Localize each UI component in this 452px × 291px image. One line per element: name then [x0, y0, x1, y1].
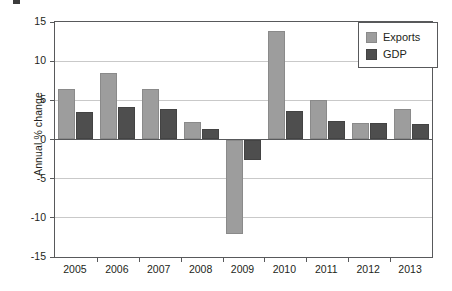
x-tick-mark-2 [181, 257, 182, 262]
legend-item-gdp: GDP [366, 48, 431, 60]
bar-exports-2012 [352, 123, 369, 139]
x-tick-mark-7 [390, 257, 391, 262]
legend-swatch-exports [366, 32, 377, 43]
y-tick-label--15: -15 [2, 251, 46, 262]
y-tick-label-15: 15 [2, 16, 46, 27]
gridline--10 [55, 217, 432, 218]
x-tick-mark-0 [97, 257, 98, 262]
y-tick-mark--5 [50, 178, 55, 179]
y-tick-mark-0 [50, 139, 55, 140]
bar-chart: Annual % change 151050-5-10-15 200520062… [0, 0, 452, 291]
bar-exports-2010 [268, 31, 285, 139]
y-tick-mark-15 [50, 22, 55, 23]
x-tick-mark-3 [223, 257, 224, 262]
bar-exports-2013 [394, 109, 411, 140]
bar-gdp-2008 [202, 129, 219, 139]
bar-gdp-2010 [286, 111, 303, 140]
x-tick-mark-5 [306, 257, 307, 262]
gridline--5 [55, 178, 432, 179]
x-tick-label-2013: 2013 [384, 263, 436, 275]
y-tick-mark--15 [50, 257, 55, 258]
legend-label-exports: Exports [383, 31, 420, 43]
y-tick-label-0: 0 [2, 134, 46, 145]
x-tick-mark-6 [348, 257, 349, 262]
chart-legend: Exports GDP [358, 22, 438, 68]
y-tick-label-10: 10 [2, 55, 46, 66]
bar-exports-2007 [142, 89, 159, 139]
legend-swatch-gdp [366, 49, 377, 60]
bar-exports-2008 [184, 122, 201, 139]
bar-gdp-2013 [412, 124, 429, 140]
x-tick-mark-1 [139, 257, 140, 262]
y-tick-label--10: -10 [2, 212, 46, 223]
cropped-text-mark [13, 0, 20, 4]
bar-exports-2009 [226, 140, 243, 234]
y-tick-label-5: 5 [2, 94, 46, 105]
x-tick-mark-4 [264, 257, 265, 262]
bar-exports-2011 [310, 100, 327, 139]
bar-exports-2005 [58, 89, 75, 139]
y-tick-label--5: -5 [2, 173, 46, 184]
legend-label-gdp: GDP [383, 48, 407, 60]
bar-gdp-2006 [118, 107, 135, 139]
legend-item-exports: Exports [366, 31, 431, 43]
bar-exports-2006 [100, 73, 117, 140]
y-tick-mark-10 [50, 61, 55, 62]
y-tick-mark-5 [50, 100, 55, 101]
bar-gdp-2009 [244, 140, 261, 160]
bar-gdp-2005 [76, 112, 93, 139]
y-tick-mark--10 [50, 217, 55, 218]
bar-gdp-2012 [370, 123, 387, 139]
bar-gdp-2007 [160, 109, 177, 140]
bar-gdp-2011 [328, 121, 345, 140]
